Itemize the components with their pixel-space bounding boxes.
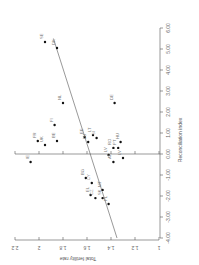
data-point: AT	[107, 153, 114, 163]
y-tick-label: 1.6	[83, 245, 90, 251]
x-tick-label: -4.00	[165, 232, 171, 244]
svg-text:EE: EE	[79, 128, 84, 134]
x-tick-label: 1.00	[165, 128, 171, 138]
svg-text:UK: UK	[39, 136, 44, 142]
data-point: BE	[51, 132, 58, 142]
y-tick-label: 2	[37, 245, 40, 251]
data-points: SEDKNLFIFRUKBEIEEELULTSIDEHUROPTLVATLVBG…	[25, 33, 125, 205]
y-axis-title: Total fertility rate	[60, 256, 97, 262]
data-point: SE	[39, 33, 46, 43]
zero-reference-line	[15, 151, 160, 154]
svg-text:BE: BE	[51, 132, 56, 138]
data-point: SI	[91, 131, 98, 139]
x-axis-title: Reconciliation index	[177, 117, 183, 162]
x-tick-label: -2.00	[165, 190, 171, 202]
svg-text:LV: LV	[103, 147, 108, 152]
x-tick-label: -3.00	[165, 211, 171, 223]
y-tick-label: 1.8	[59, 245, 66, 251]
data-point: IE	[25, 155, 32, 163]
x-tick-label: 0.00	[165, 149, 171, 159]
svg-text:BG: BG	[80, 169, 85, 175]
svg-text:FI: FI	[49, 118, 54, 122]
data-point: DE	[109, 94, 116, 104]
svg-text:DE: DE	[109, 94, 114, 100]
data-point: LV	[117, 150, 124, 159]
x-tick-label: 4.00	[165, 65, 171, 75]
x-tick-label: 3.00	[165, 86, 171, 96]
svg-text:SE: SE	[39, 33, 44, 39]
data-point: LU	[82, 134, 89, 144]
x-tick-label: 5.00	[165, 44, 171, 54]
x-tick-label: 6.00	[165, 23, 171, 33]
data-point: CY	[86, 174, 93, 184]
data-point: FR	[32, 132, 39, 142]
reconciliation-axis: -4.00-3.00-2.00-1.000.001.002.003.004.00…	[160, 23, 171, 244]
svg-text:LV: LV	[117, 150, 122, 155]
data-point: DK	[51, 39, 58, 49]
data-point: CZ	[89, 189, 96, 199]
svg-text:CZ: CZ	[89, 189, 94, 195]
svg-text:CY: CY	[86, 174, 91, 180]
y-tick-label: 1.2	[131, 245, 138, 251]
svg-text:FR: FR	[32, 132, 37, 138]
svg-text:AT: AT	[107, 153, 112, 158]
fertility-axis: 11.21.41.61.822.2	[11, 237, 160, 251]
y-tick-label: 1	[157, 245, 160, 251]
svg-text:LU: LU	[82, 134, 87, 139]
svg-text:IE: IE	[25, 155, 30, 159]
y-tick-label: 2.2	[11, 245, 18, 251]
x-tick-label: 2.00	[165, 107, 171, 117]
svg-text:SI: SI	[91, 131, 96, 135]
svg-text:PL: PL	[103, 195, 108, 201]
y-tick-label: 1.4	[107, 245, 114, 251]
data-point: FI	[49, 118, 56, 126]
svg-text:HU: HU	[115, 133, 120, 139]
svg-text:DK: DK	[51, 39, 56, 45]
svg-text:NL: NL	[57, 94, 62, 100]
scatter-chart: -4.00-3.00-2.00-1.000.001.002.003.004.00…	[0, 0, 199, 265]
data-point: NL	[57, 94, 64, 104]
data-point: UK	[39, 136, 46, 146]
x-tick-label: -1.00	[165, 169, 171, 181]
svg-text:PT: PT	[112, 139, 117, 145]
svg-text:SK: SK	[97, 189, 102, 195]
svg-text:MT: MT	[97, 180, 102, 186]
